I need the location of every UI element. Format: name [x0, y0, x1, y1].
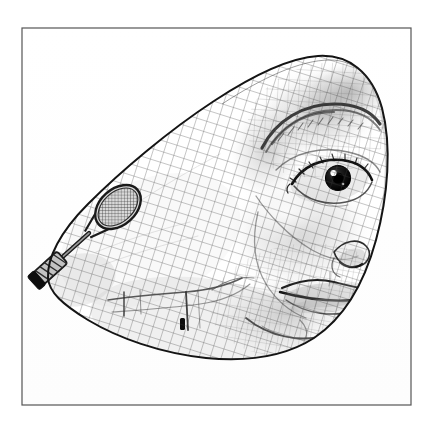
artwork-svg — [0, 0, 437, 427]
artwork-canvas — [0, 0, 437, 427]
